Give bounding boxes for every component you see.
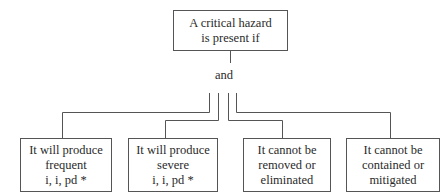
condition-line: frequent — [45, 158, 87, 173]
condition-box-severe: It will produce severe i, i, pd * — [128, 138, 218, 192]
condition-line: mitigated — [369, 173, 416, 188]
condition-line: It will produce — [29, 143, 103, 158]
root-line-2: is present if — [201, 31, 259, 46]
condition-line: It will produce — [136, 143, 210, 158]
condition-line: It cannot be — [257, 143, 316, 158]
condition-line: i, i, pd * — [45, 173, 86, 188]
condition-line: contained or — [362, 158, 424, 173]
condition-box-not-containable: It cannot be contained or mitigated — [346, 138, 440, 192]
condition-line: eliminated — [261, 173, 314, 188]
and-gate-label: and — [215, 68, 233, 83]
root-condition-box: A critical hazard is present if — [173, 10, 288, 51]
condition-line: removed or — [258, 158, 315, 173]
root-line-1: A critical hazard — [189, 16, 272, 31]
condition-box-frequent: It will produce frequent i, i, pd * — [20, 138, 112, 192]
condition-line: i, i, pd * — [152, 173, 193, 188]
condition-box-not-removable: It cannot be removed or eliminated — [243, 138, 331, 192]
condition-line: severe — [157, 158, 189, 173]
condition-line: It cannot be — [363, 143, 422, 158]
